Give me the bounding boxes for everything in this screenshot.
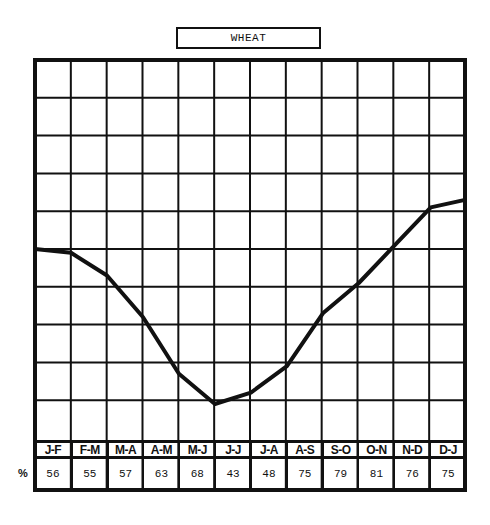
percent-row-label: % xyxy=(18,467,28,479)
percent-value: 76 xyxy=(393,459,429,488)
percent-value: 55 xyxy=(71,459,107,488)
period-labels-row: J-F F-M M-A A-M M-J J-J J-A A-S S-O O-N … xyxy=(35,440,465,459)
period-label: S-O xyxy=(322,443,358,457)
percent-value: 75 xyxy=(429,459,465,488)
period-label: F-M xyxy=(71,443,107,457)
period-label: J-J xyxy=(214,443,250,457)
percent-value: 68 xyxy=(178,459,214,488)
period-label: A-S xyxy=(286,443,322,457)
period-label: M-J xyxy=(178,443,214,457)
period-label: J-A xyxy=(250,443,286,457)
percent-value: 81 xyxy=(357,459,393,488)
percent-value: 48 xyxy=(250,459,286,488)
percent-value: 75 xyxy=(286,459,322,488)
percent-value: 56 xyxy=(35,459,71,488)
percent-value: 57 xyxy=(107,459,143,488)
percent-values-row: 56 55 57 63 68 43 48 75 79 81 76 75 xyxy=(35,459,465,488)
percent-value: 43 xyxy=(214,459,250,488)
percent-value: 63 xyxy=(142,459,178,488)
period-label: O-N xyxy=(357,443,393,457)
period-label: M-A xyxy=(107,443,143,457)
period-label: A-M xyxy=(142,443,178,457)
grid-lines xyxy=(35,60,465,490)
period-label: N-D xyxy=(393,443,429,457)
period-label: D-J xyxy=(429,443,465,457)
period-label: J-F xyxy=(35,443,71,457)
percent-value: 79 xyxy=(322,459,358,488)
